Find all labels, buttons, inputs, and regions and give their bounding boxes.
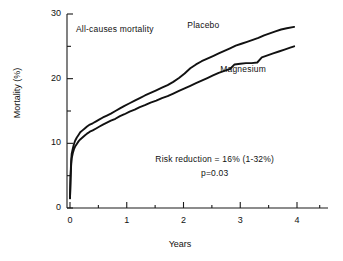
y-tick-label: 0 (33, 202, 61, 212)
y-tick-label: 30 (33, 8, 61, 18)
x-tick-label: 4 (282, 215, 312, 225)
series-label-placebo: Placebo (187, 20, 219, 30)
mortality-chart-figure: All-causes mortality Placebo Magnesium R… (0, 0, 343, 261)
x-tick-label: 1 (112, 215, 142, 225)
y-tick-label: 10 (33, 137, 61, 147)
y-axis-title: Mortality (%) (12, 58, 22, 128)
curve-placebo (70, 27, 294, 198)
axis-ticks (67, 14, 320, 208)
data-curves (70, 27, 294, 198)
x-axis-title: Years (150, 239, 210, 249)
y-tick-label: 20 (33, 73, 61, 83)
series-label-magnesium: Magnesium (220, 64, 266, 74)
annotation-p-value: p=0.03 (201, 168, 228, 178)
x-tick-label: 0 (55, 215, 85, 225)
chart-inline-title: All-causes mortality (76, 24, 154, 34)
annotation-risk-reduction: Risk reduction = 16% (1-32%) (155, 154, 274, 164)
axes-frame (67, 14, 328, 208)
x-tick-label: 2 (169, 215, 199, 225)
x-tick-label: 3 (225, 215, 255, 225)
